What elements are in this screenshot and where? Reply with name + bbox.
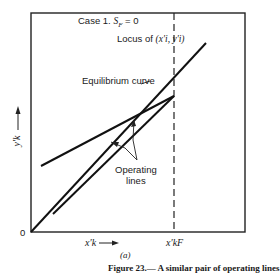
feed-composition-label: x′kF xyxy=(166,238,183,248)
equilibrium-curve xyxy=(31,43,206,232)
case-symbol-subscript: F xyxy=(118,21,122,29)
locus-label: Locus of (x′i, y′i) xyxy=(117,34,185,45)
x-axis-arrow-icon xyxy=(112,241,119,246)
case-value: = 0 xyxy=(125,15,138,26)
y-axis-arrow-icon xyxy=(16,106,21,114)
y-axis-label: y′k xyxy=(12,135,22,146)
operating-label-line1: Operating xyxy=(115,164,157,175)
locus-text: Locus of xyxy=(117,33,153,44)
operating-line-upper xyxy=(41,96,174,166)
x-axis-label: x′k xyxy=(85,238,96,248)
plot-frame xyxy=(31,13,245,232)
operating-label-line2: lines xyxy=(115,175,157,186)
figure-caption-fragment: Figure 23.— A similar pair of operating … xyxy=(108,264,280,273)
locus-coords: (x′i, y′i) xyxy=(156,34,185,44)
operating-line-lower xyxy=(53,96,174,214)
case-number: Case 1. xyxy=(78,15,111,26)
case-label: Case 1. SF = 0 xyxy=(78,16,139,27)
equilibrium-curve-label: Equilibrium curve xyxy=(82,76,155,86)
subfigure-label: (a) xyxy=(120,251,131,260)
operating-lines-label: Operating lines xyxy=(115,164,157,186)
origin-label: 0 xyxy=(20,228,25,238)
